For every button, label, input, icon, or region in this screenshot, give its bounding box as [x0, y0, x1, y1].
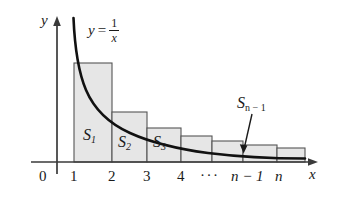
area-label-s3-base: S [153, 133, 161, 150]
x-tick-label-1: 1 [70, 169, 78, 184]
area-label-s1: S1 [83, 127, 96, 145]
rectangle-s7 [277, 148, 305, 162]
figure-integral-test-diagram: y x y = 1 x 0 1 2 3 4 ··· n − 1 n S1 S2 … [0, 0, 339, 198]
rectangle-s1 [74, 63, 112, 162]
diagram-canvas [0, 0, 339, 198]
equation-equals-sign: = [98, 22, 106, 39]
x-tick-label-n: n [275, 169, 283, 184]
callout-label-subscript: n − 1 [245, 102, 266, 113]
y-axis-label: y [41, 13, 48, 28]
callout-label-base: S [237, 94, 245, 111]
equation-numerator: 1 [109, 17, 119, 30]
x-tick-label-4: 4 [177, 169, 185, 184]
x-tick-label-ellipsis: ··· [200, 168, 220, 183]
area-label-s3: S3 [153, 134, 166, 152]
riemann-rectangles [74, 63, 305, 162]
rectangle-s6 [243, 145, 277, 162]
equation-lhs: y [88, 22, 95, 39]
x-axis-arrowhead [308, 158, 318, 166]
callout-arrow-shaft [245, 114, 253, 147]
origin-label-zero: 0 [39, 169, 47, 184]
callout-label-s-n-minus-1: Sn − 1 [237, 95, 266, 113]
x-axis-label: x [309, 167, 316, 182]
rectangle-s5 [212, 141, 243, 162]
x-tick-label-n-minus-1: n − 1 [231, 169, 264, 184]
x-tick-label-2: 2 [108, 169, 116, 184]
equation-fraction: 1 x [109, 17, 119, 44]
area-label-s2-base: S [118, 133, 126, 150]
equation-denominator: x [109, 30, 118, 44]
x-tick-label-3: 3 [143, 169, 151, 184]
equation-y-equals-one-over-x: y = 1 x [88, 17, 119, 44]
area-label-s1-subscript: 1 [91, 134, 96, 145]
y-axis-arrowhead [53, 16, 61, 26]
area-label-s3-subscript: 3 [161, 141, 166, 152]
area-label-s2: S2 [118, 134, 131, 152]
area-label-s2-subscript: 2 [126, 141, 131, 152]
area-label-s1-base: S [83, 126, 91, 143]
